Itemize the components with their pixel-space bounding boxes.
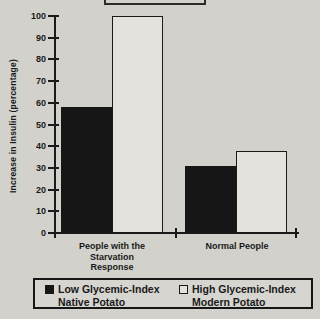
y-axis-tick — [48, 189, 59, 191]
y-axis-tick-label: 90 — [24, 33, 46, 42]
bar-low-gi-group-1 — [61, 107, 112, 233]
y-axis-title: Increase in Insulin (percentage) — [8, 59, 18, 193]
y-axis-tick-label: 20 — [24, 185, 46, 194]
y-axis-tick-label: 40 — [24, 142, 46, 151]
legend-label-line1: High Glycemic-Index — [192, 283, 296, 295]
bar-high-gi-group-1 — [112, 16, 163, 233]
y-axis-tick-label: 80 — [24, 55, 46, 64]
y-axis-tick — [48, 15, 59, 17]
x-axis-tick — [54, 228, 56, 238]
legend-item-low-gi: Low Glycemic-Index Native Potato — [45, 283, 179, 308]
y-axis-tick — [48, 167, 59, 169]
y-axis-tick — [48, 124, 59, 126]
y-axis-tick-label: 50 — [24, 120, 46, 129]
y-axis-tick — [48, 145, 59, 147]
plot-area: 0102030405060708090100People with theSta… — [0, 0, 320, 319]
y-axis-tick — [48, 58, 59, 60]
x-category-label: People with theStarvationResponse — [79, 241, 145, 273]
legend-label: High Glycemic-Index Modern Potato — [192, 283, 296, 308]
open-square-swatch-icon — [179, 285, 188, 294]
x-axis-tick — [295, 228, 297, 238]
y-axis-tick — [48, 210, 59, 212]
y-axis-tick-label: 10 — [24, 207, 46, 216]
scanned-bar-chart-figure: 0102030405060708090100People with theSta… — [0, 0, 320, 319]
y-axis-tick — [48, 102, 59, 104]
y-axis-tick-label: 60 — [24, 98, 46, 107]
y-axis-tick-label: 0 — [24, 229, 46, 238]
legend-label: Low Glycemic-Index Native Potato — [58, 283, 160, 308]
legend-item-high-gi: High Glycemic-Index Modern Potato — [179, 283, 296, 308]
y-axis-tick — [48, 37, 59, 39]
y-axis-tick-label: 70 — [24, 77, 46, 86]
bar-high-gi-group-2 — [236, 151, 287, 233]
legend-box: Low Glycemic-Index Native Potato High Gl… — [33, 278, 313, 309]
legend-label-line2: Modern Potato — [192, 296, 266, 308]
x-category-label: Normal People — [205, 241, 268, 252]
filled-square-swatch-icon — [45, 285, 54, 294]
y-axis-tick-label: 100 — [24, 12, 46, 21]
bar-low-gi-group-2 — [185, 166, 236, 233]
y-axis-tick-label: 30 — [24, 163, 46, 172]
x-axis-tick — [175, 228, 177, 238]
legend-label-line1: Low Glycemic-Index — [58, 283, 160, 295]
y-axis-tick — [48, 80, 59, 82]
legend-label-line2: Native Potato — [58, 296, 125, 308]
